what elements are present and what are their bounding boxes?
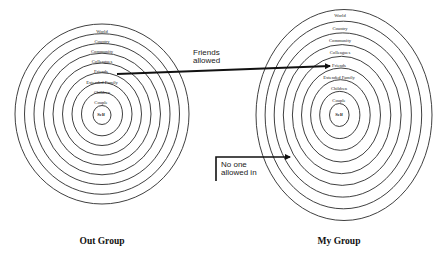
label-couple: Couple [332, 98, 345, 103]
label-world: World [334, 13, 346, 18]
label-community: Community [329, 38, 352, 43]
my-group-caption: My Group [318, 236, 361, 246]
friends-allowed-arrow [117, 66, 330, 74]
label-colleagues: Colleagues [330, 50, 351, 55]
label-couple: Couple [94, 100, 107, 105]
out-group-circles: World Country Community Colleagues Frien… [15, 24, 189, 204]
label-community: Community [91, 49, 114, 54]
label-friends: Friends [332, 63, 346, 68]
label-self: Self [335, 112, 343, 117]
label-country: Country [94, 39, 110, 44]
label-friends: Friends [94, 69, 108, 74]
label-extended-family: Extended Family [323, 75, 355, 80]
label-self: Self [97, 112, 105, 117]
out-group-caption: Out Group [80, 236, 125, 246]
label-colleagues: Colleagues [92, 59, 113, 64]
label-children: Children [331, 86, 348, 91]
label-country: Country [332, 26, 348, 31]
label-children: Children [94, 90, 111, 95]
friends-allowed-text-line2: allowed [193, 56, 220, 65]
label-extended-family: Extended Family [86, 80, 118, 85]
friends-allowed-annotation: Friends allowed [117, 48, 330, 74]
my-group-circles: World Country Community Colleagues Frien… [256, 10, 432, 221]
no-one-allowed-text-line2: allowed in [221, 168, 257, 177]
label-world: World [96, 29, 108, 34]
concentric-groups-diagram: World Country Community Colleagues Frien… [0, 0, 442, 253]
